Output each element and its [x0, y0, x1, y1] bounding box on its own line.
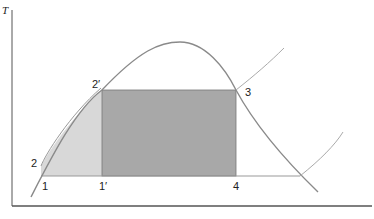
point-1-label: 1: [42, 180, 48, 192]
y-axis-label: T: [2, 4, 9, 16]
point-2p-label: 2′: [92, 78, 100, 90]
point-3-label: 3: [245, 86, 251, 98]
point-2-label: 2: [31, 157, 37, 169]
sensible-heat-region: [41, 90, 102, 176]
superheat-line-lower: [300, 132, 343, 176]
ts-diagram: T 1 1′ 2 2′ 3 4: [0, 0, 374, 219]
point-1p-label: 1′: [99, 180, 107, 192]
latent-heat-region: [102, 90, 236, 176]
point-4-label: 4: [233, 180, 239, 192]
superheat-line-upper: [236, 48, 284, 90]
